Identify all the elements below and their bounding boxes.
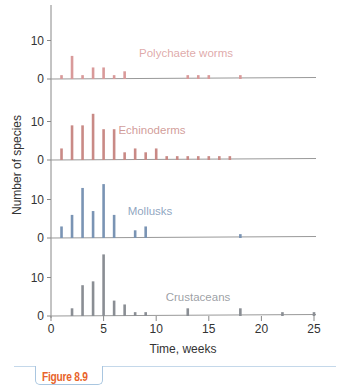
bar <box>71 308 74 316</box>
bar <box>81 125 84 160</box>
y-tick-label: 10 <box>31 115 45 129</box>
bar <box>102 184 105 238</box>
bar <box>60 226 63 238</box>
bar <box>144 152 147 160</box>
bar <box>92 114 95 160</box>
bar <box>102 254 105 316</box>
bar <box>113 129 116 160</box>
y-axis-title: Number of species <box>10 115 24 215</box>
bar <box>134 312 137 316</box>
bar <box>134 230 137 238</box>
bar <box>197 156 200 160</box>
bar <box>144 226 147 238</box>
series-label-polychaete-worms: Polychaete worms <box>139 47 233 59</box>
bar <box>71 215 74 238</box>
panel-mollusks: 010Mollusks <box>31 184 316 245</box>
x-tick-label: 0 <box>48 322 55 336</box>
bar <box>239 75 242 79</box>
y-tick-label: 0 <box>37 72 44 86</box>
bar <box>81 285 84 316</box>
x-axis: 0510152025 <box>48 316 321 336</box>
species-timeline-chart: 0510152025 010Polychaete worms010Echinod… <box>0 0 341 389</box>
bar <box>60 75 63 79</box>
figure-label-tab: Figure 8.9 <box>35 366 103 385</box>
bar <box>81 75 84 79</box>
bar <box>281 312 284 316</box>
x-tick-label: 20 <box>255 322 269 336</box>
panel-baseline <box>51 159 316 161</box>
bar <box>123 152 126 160</box>
bar <box>92 281 95 316</box>
bar <box>92 67 95 79</box>
x-tick-label: 25 <box>307 322 321 336</box>
y-tick-label: 0 <box>37 153 44 167</box>
bar <box>71 125 74 160</box>
bar <box>102 129 105 160</box>
bar <box>81 188 84 238</box>
bar <box>60 148 63 160</box>
y-tick-label: 0 <box>37 309 44 323</box>
x-tick-label: 15 <box>202 322 216 336</box>
bar <box>208 75 211 79</box>
panel-echinoderms: 010Echinoderms <box>31 114 316 167</box>
bar <box>155 148 158 160</box>
panel-baseline <box>51 315 316 317</box>
bar <box>144 312 147 316</box>
bar <box>186 75 189 79</box>
bar <box>134 148 137 160</box>
bar <box>113 301 116 316</box>
bar <box>239 308 242 316</box>
y-tick-label: 10 <box>31 193 45 207</box>
bar <box>218 156 221 160</box>
series-label-echinoderms: Echinoderms <box>118 124 185 136</box>
panel-baseline <box>51 237 316 239</box>
panel-baseline <box>51 78 316 80</box>
figure-label: Figure 8.9 <box>42 370 88 384</box>
bar <box>186 308 189 316</box>
bar <box>229 156 232 160</box>
bar <box>239 234 242 238</box>
bar <box>197 75 200 79</box>
y-tick-label: 0 <box>37 231 44 245</box>
bar <box>123 304 126 316</box>
bar <box>313 312 316 316</box>
bar <box>176 156 179 160</box>
panel-polychaete-worms: 010Polychaete worms <box>31 34 316 87</box>
panel-crustaceans: 010Crustaceans <box>31 254 316 323</box>
panels: 010Polychaete worms010Echinoderms010Moll… <box>31 34 316 324</box>
bar <box>113 75 116 79</box>
series-label-mollusks: Mollusks <box>128 205 173 217</box>
y-tick-label: 10 <box>31 271 45 285</box>
bar <box>165 156 168 160</box>
bar <box>113 215 116 238</box>
y-tick-label: 10 <box>31 34 45 48</box>
bar <box>92 211 95 238</box>
series-label-crustaceans: Crustaceans <box>166 291 231 303</box>
x-axis-title: Time, weeks <box>150 342 217 356</box>
bar <box>186 156 189 160</box>
bar <box>71 56 74 79</box>
x-tick-label: 5 <box>100 322 107 336</box>
bar <box>102 67 105 79</box>
x-tick-label: 10 <box>150 322 164 336</box>
bar <box>208 156 211 160</box>
bar <box>123 71 126 79</box>
